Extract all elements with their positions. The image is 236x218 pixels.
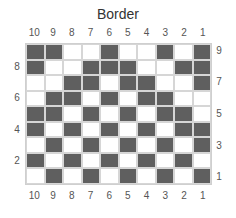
empty-cell bbox=[82, 122, 101, 138]
empty-cell bbox=[63, 168, 82, 184]
empty-cell bbox=[156, 75, 175, 91]
filled-cell bbox=[137, 91, 156, 107]
filled-cell bbox=[100, 153, 119, 169]
empty-cell bbox=[100, 75, 119, 91]
column-label: 7 bbox=[81, 27, 100, 38]
empty-cell bbox=[119, 122, 138, 138]
diagram-title: Border bbox=[0, 6, 236, 22]
filled-cell bbox=[45, 168, 64, 184]
empty-cell bbox=[100, 106, 119, 122]
empty-cell bbox=[45, 122, 64, 138]
empty-cell bbox=[100, 168, 119, 184]
filled-cell bbox=[119, 106, 138, 122]
column-label: 9 bbox=[44, 190, 63, 201]
column-label: 6 bbox=[100, 27, 119, 38]
filled-cell bbox=[174, 106, 193, 122]
empty-cell bbox=[156, 153, 175, 169]
filled-cell bbox=[26, 106, 45, 122]
filled-cell bbox=[156, 44, 175, 60]
weave-grid bbox=[25, 43, 212, 185]
filled-cell bbox=[193, 168, 212, 184]
empty-cell bbox=[137, 44, 156, 60]
filled-cell bbox=[82, 168, 101, 184]
column-label: 4 bbox=[137, 190, 156, 201]
filled-cell bbox=[63, 91, 82, 107]
column-label: 2 bbox=[175, 27, 194, 38]
filled-cell bbox=[63, 122, 82, 138]
filled-cell bbox=[45, 106, 64, 122]
empty-cell bbox=[156, 122, 175, 138]
empty-cell bbox=[119, 91, 138, 107]
filled-cell bbox=[193, 60, 212, 76]
row-label-right: 3 bbox=[214, 140, 224, 151]
empty-cell bbox=[174, 44, 193, 60]
empty-cell bbox=[26, 168, 45, 184]
filled-cell bbox=[82, 75, 101, 91]
empty-cell bbox=[82, 91, 101, 107]
filled-cell bbox=[156, 137, 175, 153]
column-label: 1 bbox=[193, 190, 212, 201]
empty-cell bbox=[26, 137, 45, 153]
column-label: 5 bbox=[119, 190, 138, 201]
column-label: 8 bbox=[62, 190, 81, 201]
filled-cell bbox=[82, 60, 101, 76]
filled-cell bbox=[193, 122, 212, 138]
filled-cell bbox=[156, 106, 175, 122]
filled-cell bbox=[193, 44, 212, 60]
empty-cell bbox=[174, 168, 193, 184]
empty-cell bbox=[45, 75, 64, 91]
column-label: 2 bbox=[175, 190, 194, 201]
column-label: 3 bbox=[156, 27, 175, 38]
column-label: 10 bbox=[25, 190, 44, 201]
empty-cell bbox=[119, 44, 138, 60]
filled-cell bbox=[26, 44, 45, 60]
empty-cell bbox=[26, 75, 45, 91]
empty-cell bbox=[119, 153, 138, 169]
filled-cell bbox=[100, 44, 119, 60]
empty-cell bbox=[82, 153, 101, 169]
column-labels-top: 10987654321 bbox=[25, 27, 212, 38]
filled-cell bbox=[174, 153, 193, 169]
filled-cell bbox=[45, 44, 64, 60]
empty-cell bbox=[174, 137, 193, 153]
row-label-left: 6 bbox=[12, 92, 22, 103]
filled-cell bbox=[119, 137, 138, 153]
empty-cell bbox=[137, 168, 156, 184]
filled-cell bbox=[174, 122, 193, 138]
filled-cell bbox=[100, 91, 119, 107]
row-label-left: 2 bbox=[12, 155, 22, 166]
empty-cell bbox=[193, 106, 212, 122]
filled-cell bbox=[156, 168, 175, 184]
filled-cell bbox=[137, 75, 156, 91]
empty-cell bbox=[174, 91, 193, 107]
empty-cell bbox=[156, 60, 175, 76]
filled-cell bbox=[137, 122, 156, 138]
filled-cell bbox=[63, 153, 82, 169]
empty-cell bbox=[63, 106, 82, 122]
column-label: 8 bbox=[62, 27, 81, 38]
empty-cell bbox=[193, 91, 212, 107]
empty-cell bbox=[45, 153, 64, 169]
filled-cell bbox=[100, 60, 119, 76]
filled-cell bbox=[26, 122, 45, 138]
empty-cell bbox=[137, 106, 156, 122]
empty-cell bbox=[137, 137, 156, 153]
empty-cell bbox=[63, 60, 82, 76]
filled-cell bbox=[137, 153, 156, 169]
filled-cell bbox=[26, 153, 45, 169]
column-label: 6 bbox=[100, 190, 119, 201]
column-label: 5 bbox=[119, 27, 138, 38]
filled-cell bbox=[63, 75, 82, 91]
row-label-right: 7 bbox=[214, 76, 224, 87]
empty-cell bbox=[26, 91, 45, 107]
column-label: 10 bbox=[25, 27, 44, 38]
empty-cell bbox=[45, 60, 64, 76]
column-label: 3 bbox=[156, 190, 175, 201]
filled-cell bbox=[26, 60, 45, 76]
filled-cell bbox=[156, 91, 175, 107]
row-label-right: 9 bbox=[214, 45, 224, 56]
filled-cell bbox=[82, 137, 101, 153]
filled-cell bbox=[100, 122, 119, 138]
filled-cell bbox=[119, 168, 138, 184]
column-label: 4 bbox=[137, 27, 156, 38]
